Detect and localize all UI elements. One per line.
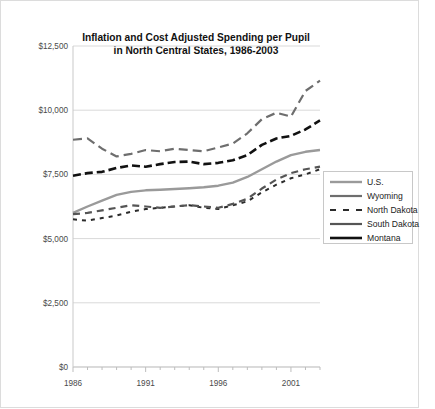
y-tick-label: $10,000 [38, 106, 68, 115]
chart-title-line2: in North Central States, 1986-2003 [114, 45, 279, 56]
series-line-south-dakota [73, 167, 320, 215]
x-tick-label: 1986 [64, 379, 83, 388]
x-axis-tick-labels: 1986199119962001 [64, 379, 301, 388]
chart-container: Inflation and Cost Adjusted Spending per… [0, 0, 435, 409]
x-tick-label: 2001 [282, 379, 301, 388]
series-line-montana [73, 120, 320, 175]
y-axis-tick-labels: $0$2,500$5,000$7,500$10,000$12,500 [38, 42, 68, 372]
legend-label-montana: Montana [367, 233, 401, 243]
legend-label-south-dakota: South Dakota [367, 219, 419, 229]
legend-label-north-dakota: North Dakota [367, 205, 418, 215]
y-tick-label: $12,500 [38, 42, 68, 51]
legend-label-u-s-: U.S. [367, 177, 384, 187]
series-line-wyoming [73, 81, 320, 157]
legend-label-wyoming: Wyoming [367, 191, 403, 201]
y-tick-label: $7,500 [43, 170, 68, 179]
chart-title-line1: Inflation and Cost Adjusted Spending per… [82, 32, 310, 43]
x-tick-label: 1996 [209, 379, 228, 388]
y-tick-label: $2,500 [43, 299, 68, 308]
x-axis-tickmarks [73, 367, 320, 372]
y-tick-label: $5,000 [43, 235, 68, 244]
spending-per-pupil-line-chart: Inflation and Cost Adjusted Spending per… [0, 0, 435, 409]
y-tick-label: $0 [59, 363, 69, 372]
x-tick-label: 1991 [137, 379, 156, 388]
series-lines [73, 81, 320, 221]
